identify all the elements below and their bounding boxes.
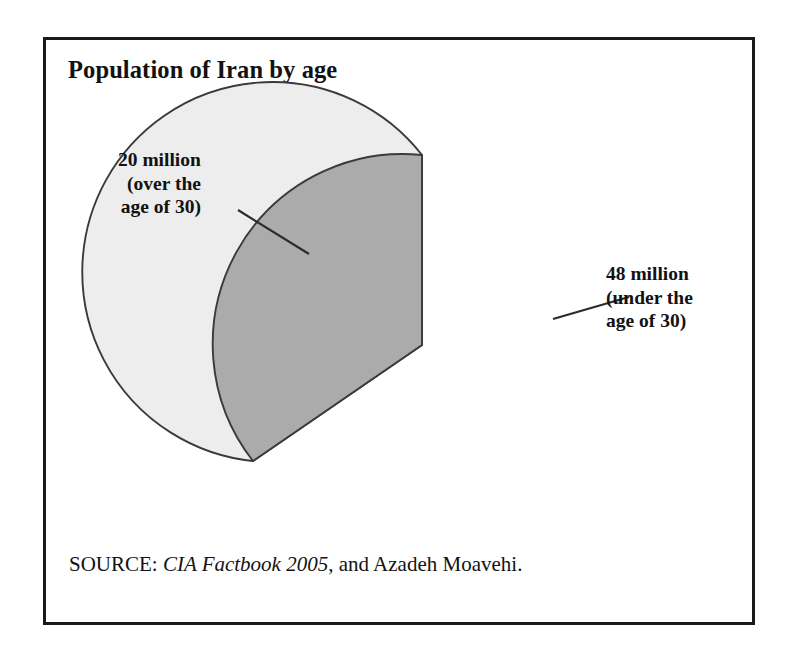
callout-over-30-line1: 20 million [118, 148, 201, 172]
callout-over-30-line2: (over the [118, 172, 201, 196]
pie-chart: 20 million (over the age of 30) 48 milli… [46, 40, 758, 628]
callout-label-over-30: 20 million (over the age of 30) [118, 148, 201, 219]
callout-under-30-line3: age of 30) [606, 309, 693, 333]
callout-under-30-line2: (under the [606, 286, 693, 310]
callout-label-under-30: 48 million (under the age of 30) [606, 262, 693, 333]
source-title: CIA Factbook 2005 [163, 552, 328, 576]
source-note: SOURCE: CIA Factbook 2005, and Azadeh Mo… [69, 552, 522, 577]
callout-under-30-line1: 48 million [606, 262, 693, 286]
figure-frame: Population of Iran by age 20 million (ov… [43, 37, 755, 625]
callout-over-30-line3: age of 30) [118, 195, 201, 219]
source-suffix: , and Azadeh Moavehi. [328, 552, 522, 576]
source-prefix: SOURCE: [69, 552, 163, 576]
pie-chart-svg [46, 40, 758, 628]
